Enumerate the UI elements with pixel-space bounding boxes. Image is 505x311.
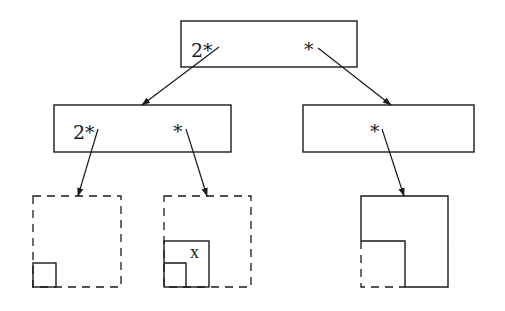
leaf3: [361, 196, 448, 287]
leaf3-solid-l-shape: [361, 196, 448, 287]
right-node: *: [303, 105, 474, 152]
leaf2-label-x: x: [190, 242, 199, 262]
edge-left-to-leaf2-arrow: [186, 129, 207, 196]
tree-diagram: 2* * 2* * * x: [0, 0, 505, 311]
edge-root-to-right-arrow: [318, 48, 391, 105]
right-label-star: *: [370, 120, 380, 142]
right-node-box: [303, 105, 474, 152]
left-label-2star: 2*: [73, 121, 95, 143]
leaf3-dashed-corner: [361, 241, 405, 287]
leaf1: [33, 196, 121, 287]
leaf2: x: [164, 196, 251, 287]
root-node: 2* *: [181, 21, 357, 67]
root-label-2star: 2*: [191, 39, 213, 61]
left-node: 2* *: [54, 105, 231, 152]
edge-right-to-leaf3-arrow: [382, 129, 404, 196]
root-label-star: *: [304, 38, 314, 60]
leaf1-dashed-region: [33, 196, 121, 287]
left-label-star: *: [173, 120, 183, 142]
leaf2-inner-corner: [164, 263, 186, 287]
leaf1-solid-square: [33, 263, 56, 287]
